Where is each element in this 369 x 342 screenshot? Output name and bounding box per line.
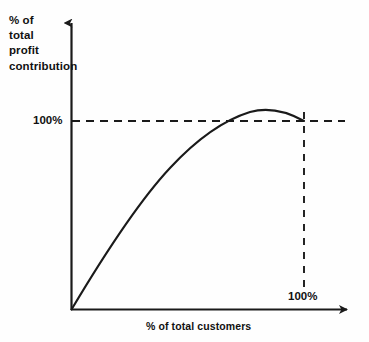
y-axis-tick-label-100: 100% bbox=[33, 113, 62, 128]
y-axis-title-line-2: total bbox=[9, 28, 77, 43]
y-axis-title-line-4: contribution bbox=[9, 59, 77, 74]
profit-contribution-curve bbox=[72, 110, 305, 310]
chart-container: % of total profit contribution 100% 100%… bbox=[0, 0, 369, 342]
y-axis-title-line-3: profit bbox=[9, 43, 77, 58]
y-axis-title-line-1: % of bbox=[9, 13, 77, 28]
x-axis-tick-label-100: 100% bbox=[288, 289, 317, 304]
y-axis-title: % of total profit contribution bbox=[9, 13, 77, 74]
x-axis-title: % of total customers bbox=[146, 320, 251, 334]
